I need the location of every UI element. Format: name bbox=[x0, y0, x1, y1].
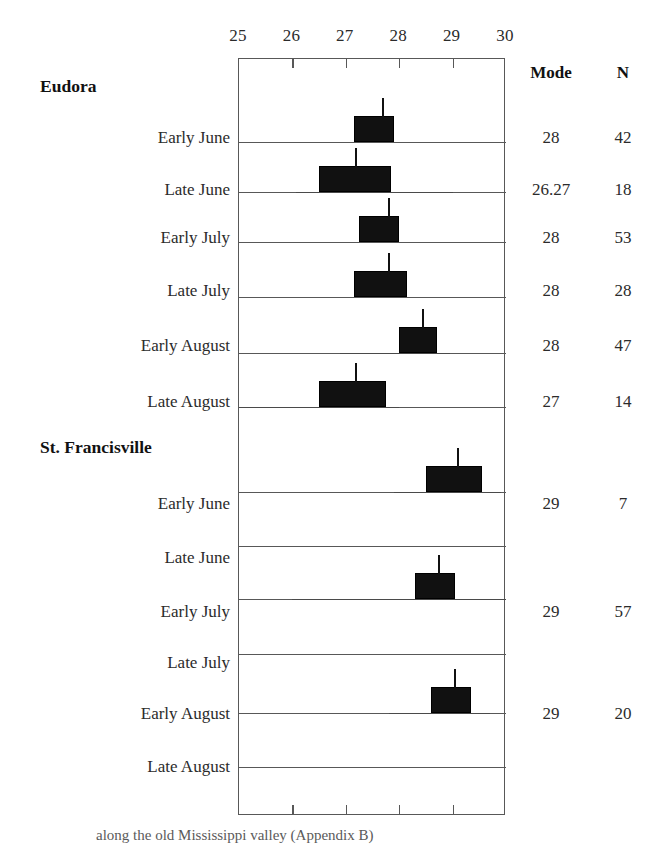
axis-tick-bottom-28 bbox=[399, 805, 400, 814]
x-axis-tick-label-25: 25 bbox=[218, 26, 258, 46]
box bbox=[431, 687, 471, 713]
axis-tick-top-27 bbox=[346, 59, 347, 68]
row-label: Late July bbox=[5, 653, 230, 673]
x-axis-tick-label-26: 26 bbox=[271, 26, 311, 46]
row-baseline bbox=[239, 297, 506, 298]
row-baseline bbox=[239, 767, 506, 768]
box bbox=[399, 327, 436, 353]
n-value: 28 bbox=[600, 281, 646, 301]
mode-value: 28 bbox=[515, 128, 587, 148]
plot-frame bbox=[238, 58, 505, 815]
n-value: 57 bbox=[600, 602, 646, 622]
group-title-eudora: Eudora bbox=[40, 76, 96, 97]
row-label: Early July bbox=[5, 228, 230, 248]
x-axis-tick-label-30: 30 bbox=[485, 26, 525, 46]
mode-value: 29 bbox=[515, 704, 587, 724]
box bbox=[359, 216, 399, 242]
mode-value: 26.27 bbox=[515, 180, 587, 200]
box bbox=[415, 573, 455, 599]
box-plot-figure: 252627282930 EudoraSt. FrancisvilleEarly… bbox=[0, 0, 671, 847]
row-label: Late August bbox=[5, 757, 230, 777]
mode-tick bbox=[355, 148, 357, 168]
n-column-header: N bbox=[600, 63, 646, 83]
row-baseline bbox=[239, 654, 506, 655]
row-label: Early June bbox=[5, 128, 230, 148]
mode-tick bbox=[388, 198, 390, 218]
row-label: Early June bbox=[5, 494, 230, 514]
n-value: 7 bbox=[600, 494, 646, 514]
x-axis-tick-label-27: 27 bbox=[325, 26, 365, 46]
mode-value: 29 bbox=[515, 602, 587, 622]
row-label: Late June bbox=[5, 180, 230, 200]
mode-value: 29 bbox=[515, 494, 587, 514]
n-value: 42 bbox=[600, 128, 646, 148]
mode-tick bbox=[388, 253, 390, 273]
mode-tick bbox=[422, 309, 424, 329]
axis-tick-top-28 bbox=[399, 59, 400, 68]
mode-value: 28 bbox=[515, 281, 587, 301]
box bbox=[354, 116, 394, 142]
axis-tick-top-29 bbox=[453, 59, 454, 68]
box bbox=[354, 271, 407, 297]
mode-tick bbox=[382, 98, 384, 118]
mode-column-header: Mode bbox=[515, 63, 587, 83]
box bbox=[319, 166, 391, 192]
axis-tick-top-26 bbox=[292, 59, 293, 68]
mode-value: 28 bbox=[515, 228, 587, 248]
row-baseline bbox=[239, 142, 506, 143]
mode-tick bbox=[454, 669, 456, 689]
mode-tick bbox=[457, 448, 459, 468]
box bbox=[426, 466, 482, 492]
n-value: 20 bbox=[600, 704, 646, 724]
mode-tick bbox=[438, 555, 440, 575]
group-title-st-francisville: St. Francisville bbox=[40, 437, 152, 458]
axis-tick-bottom-29 bbox=[453, 805, 454, 814]
mode-value: 27 bbox=[515, 392, 587, 412]
axis-tick-bottom-26 bbox=[292, 805, 293, 814]
row-label: Late August bbox=[5, 392, 230, 412]
row-label: Early July bbox=[5, 602, 230, 622]
x-axis-tick-label-28: 28 bbox=[378, 26, 418, 46]
mode-tick bbox=[355, 363, 357, 383]
row-label: Early August bbox=[5, 336, 230, 356]
whisker bbox=[292, 599, 506, 600]
n-value: 53 bbox=[600, 228, 646, 248]
row-label: Late June bbox=[5, 548, 230, 568]
box bbox=[319, 381, 386, 407]
axis-tick-bottom-27 bbox=[346, 805, 347, 814]
row-label: Early August bbox=[5, 704, 230, 724]
n-value: 18 bbox=[600, 180, 646, 200]
row-baseline bbox=[239, 242, 506, 243]
row-label: Late July bbox=[5, 281, 230, 301]
x-axis-tick-label-29: 29 bbox=[432, 26, 472, 46]
figure-caption: along the old Mississippi valley (Append… bbox=[96, 826, 616, 845]
n-value: 47 bbox=[600, 336, 646, 356]
n-value: 14 bbox=[600, 392, 646, 412]
mode-value: 28 bbox=[515, 336, 587, 356]
row-baseline bbox=[239, 546, 506, 547]
